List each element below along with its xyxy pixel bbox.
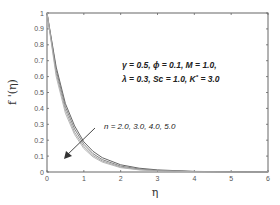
y-tick-label: 0.9 — [34, 25, 44, 32]
x-tick-label: 4 — [192, 175, 196, 182]
parameter-annotation-line2: λ = 0.3, Sc = 1.0, K* = 3.0 — [121, 74, 220, 84]
line2-main: λ = 0.3, Sc = 1.0, K — [121, 74, 197, 84]
x-tick-label: 0 — [45, 175, 49, 182]
x-tick-label: 2 — [119, 175, 123, 182]
y-tick-label: 0.5 — [34, 89, 44, 96]
y-tick-label: 0.1 — [34, 153, 44, 160]
x-tick-label: 3 — [156, 175, 160, 182]
y-tick-label: 1 — [40, 10, 44, 17]
x-axis-label: η — [152, 186, 159, 199]
y-tick-label: 0.4 — [34, 105, 44, 112]
y-tick-label: 0 — [40, 169, 44, 176]
y-tick-label: 0.2 — [34, 137, 44, 144]
line-chart: 012345600.10.20.30.40.50.60.70.80.91 η f… — [0, 0, 280, 205]
plot-area — [47, 13, 268, 172]
y-tick-label: 0.7 — [34, 57, 44, 64]
x-tick-label: 1 — [82, 175, 86, 182]
y-axis-label: f '(η) — [6, 79, 19, 105]
n-values-annotation: n = 2.0, 3.0, 4.0, 5.0 — [104, 122, 176, 131]
y-tick-label: 0.6 — [34, 73, 44, 80]
line2-tail: = 3.0 — [198, 74, 220, 84]
x-tick-label: 6 — [266, 175, 270, 182]
x-tick-label: 5 — [229, 175, 233, 182]
y-tick-label: 0.8 — [34, 41, 44, 48]
y-tick-label: 0.3 — [34, 121, 44, 128]
parameter-annotation-line1: γ = 0.5, ϕ = 0.1, M = 1.0, — [122, 60, 217, 70]
